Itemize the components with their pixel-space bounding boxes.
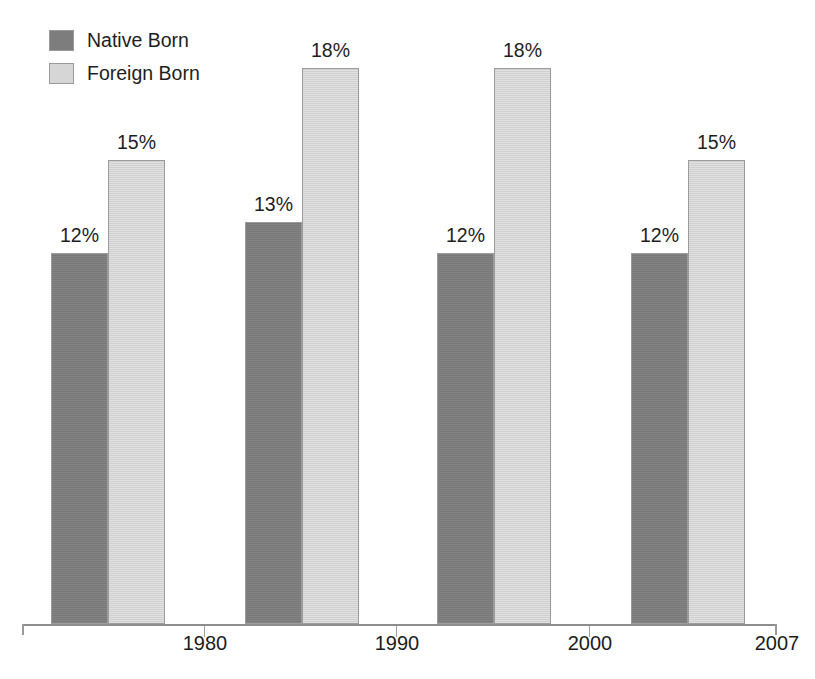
bar-1990-foreign-born xyxy=(302,68,359,624)
bar-value-label: 12% xyxy=(429,224,502,247)
bar-value-label: 15% xyxy=(100,131,173,154)
bar-chart: Native Born Foreign Born 12%15%13%18%12%… xyxy=(0,0,815,679)
bar-value-label: 18% xyxy=(294,39,367,62)
x-axis-line xyxy=(22,624,777,626)
bar-1980-foreign-born xyxy=(108,160,165,624)
bar-value-label: 15% xyxy=(680,131,753,154)
bar-2007-foreign-born xyxy=(688,160,745,624)
bar-2007-native-born xyxy=(631,253,688,624)
x-axis-label-1980: 1980 xyxy=(125,632,285,655)
x-axis-label-2000: 2000 xyxy=(510,632,670,655)
x-axis-label-1990: 1990 xyxy=(317,632,477,655)
bar-2000-native-born xyxy=(437,253,494,624)
bar-2000-foreign-born xyxy=(494,68,551,624)
x-axis-label-2007: 2007 xyxy=(697,632,815,655)
bar-1980-native-born xyxy=(51,253,108,624)
bar-value-label: 12% xyxy=(43,224,116,247)
bar-value-label: 12% xyxy=(623,224,696,247)
plot-area: 12%15%13%18%12%18%12%15%1980199020002007 xyxy=(0,0,815,679)
bar-1990-native-born xyxy=(245,222,302,624)
x-axis-left-cap xyxy=(22,624,24,635)
bar-value-label: 18% xyxy=(486,39,559,62)
bar-value-label: 13% xyxy=(237,193,310,216)
